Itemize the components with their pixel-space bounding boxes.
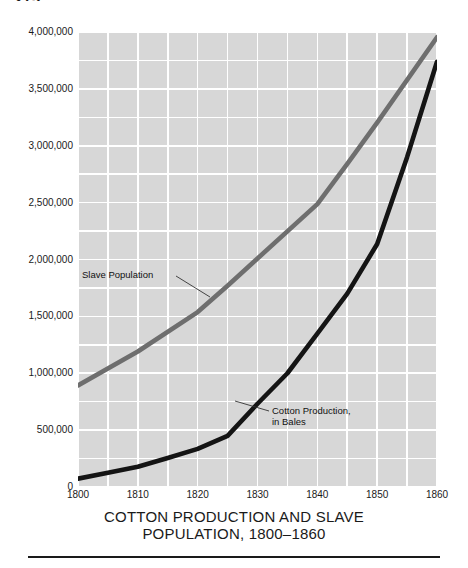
x-tick-label: 1860 [426,489,448,500]
caption-line-2: POPULATION, 1800–1860 [0,525,468,542]
chart-figure: 0500,0001,000,0001,500,0002,000,0002,500… [0,0,468,500]
y-tick-label: 3,500,000 [3,83,73,94]
y-tick-label: 1,000,000 [3,367,73,378]
y-tick-label: 3,000,000 [3,140,73,151]
y-tick-label: 0 [3,481,73,492]
y-tick-label: 1,500,000 [3,310,73,321]
annotation-slave-population: Slave Population [82,269,153,280]
x-tick-label: 1800 [67,489,89,500]
page-footer-rule [28,556,440,558]
y-tick-label: 500,000 [3,424,73,435]
leader-lines [176,276,269,411]
page-canvas: 275 0500,0001,000,0001,500,0002,000,0002… [0,0,468,568]
y-tick-label: 2,500,000 [3,197,73,208]
annotation-cotton-production: Cotton Production, in Bales [272,405,351,427]
annotation-slave-label: Slave Population [82,269,153,280]
caption-line-1: COTTON PRODUCTION AND SLAVE [0,508,468,525]
annotation-cotton-label-line1: Cotton Production, [272,405,351,416]
x-tick-label: 1850 [366,489,388,500]
y-tick-label: 4,000,000 [3,26,73,37]
x-tick-label: 1830 [246,489,268,500]
y-tick-label: 2,000,000 [3,254,73,265]
figure-caption: COTTON PRODUCTION AND SLAVE POPULATION, … [0,508,468,542]
x-tick-label: 1840 [306,489,328,500]
annotation-cotton-label-line2: in Bales [272,416,306,427]
plot-area [78,32,437,487]
x-tick-label: 1810 [127,489,149,500]
plot-svg [78,32,437,487]
x-tick-label: 1820 [187,489,209,500]
